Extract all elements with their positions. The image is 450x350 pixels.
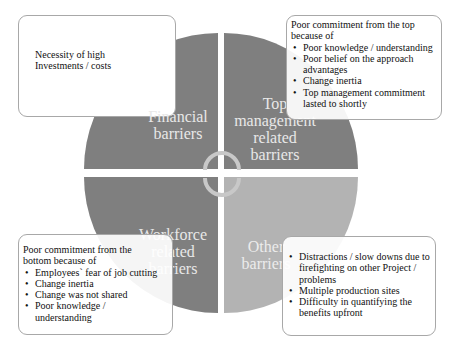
- label-line: barriers: [138, 125, 218, 142]
- bullet-item: Poor knowledge / understanding: [291, 42, 437, 53]
- cycle-arrows-icon: [196, 148, 248, 200]
- workforce-description-box: Poor commitment from the bottom because …: [18, 234, 173, 335]
- bullet-list: Employees` fear of job cutting Change in…: [23, 267, 168, 323]
- financial-barriers-label: Financial barriers: [138, 108, 218, 142]
- financial-line: Necessity of high: [35, 49, 175, 60]
- bullet-list: Poor knowledge / understanding Poor beli…: [291, 42, 437, 110]
- other-description-box: Distractions / slow downs due to firefig…: [282, 236, 436, 336]
- financial-description-box: Necessity of high Investments / costs: [18, 15, 176, 117]
- bullet-item: Difficulty in quantifying the benefits u…: [287, 296, 419, 319]
- box-intro: Poor commitment from the top because of: [291, 19, 437, 42]
- box-intro: Poor commitment from the bottom because …: [23, 244, 143, 267]
- bullet-item: Poor belief on the approach advantages: [291, 53, 437, 76]
- bullet-item: Change inertia: [291, 75, 437, 86]
- barriers-diagram: Necessity of high Investments / costs Fi…: [0, 0, 450, 350]
- bullet-item: Multiple production sites: [287, 285, 431, 296]
- bullet-item: Top management commitment lasted to shor…: [291, 87, 437, 110]
- bullet-item: Change inertia: [23, 278, 168, 289]
- financial-line: Investments / costs: [35, 60, 175, 71]
- top-management-description-box: Poor commitment from the top because of …: [286, 15, 442, 120]
- bullet-item: Distractions / slow downs due to firefig…: [287, 251, 431, 285]
- label-line: Financial: [138, 108, 218, 125]
- label-line: related: [230, 129, 320, 146]
- bullet-list: Distractions / slow downs due to firefig…: [287, 251, 431, 319]
- bullet-item: Employees` fear of job cutting: [23, 267, 168, 278]
- bullet-item: Change was not shared: [23, 289, 168, 300]
- bullet-item: Poor knowledge / understanding: [23, 300, 120, 323]
